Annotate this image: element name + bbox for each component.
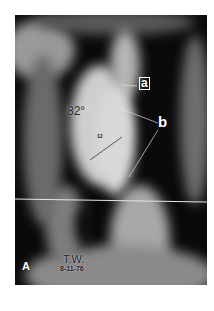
pointer-line-b2 <box>129 130 158 177</box>
panel-letter: A <box>22 260 30 272</box>
annotation-lines <box>15 15 207 285</box>
xray-date: 8-11-76 <box>60 265 84 272</box>
angle-label: 82° <box>67 104 85 118</box>
pointer-line-a <box>121 85 137 86</box>
annotation-b: b <box>158 113 167 130</box>
pointer-line-b3 <box>90 137 122 160</box>
annotation-a: a <box>139 77 150 90</box>
patient-initials: T.W. <box>63 253 84 265</box>
pointer-line-b1 <box>105 103 158 123</box>
xray-image: a b 82° 12 A T.W. 8-11-76 <box>15 15 207 285</box>
vertebra-label: 12 <box>97 133 103 139</box>
reference-line <box>15 199 207 202</box>
